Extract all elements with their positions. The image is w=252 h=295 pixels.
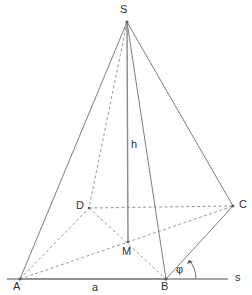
- vertex-label-a: A: [13, 281, 20, 292]
- angle-arrow-head: [187, 260, 193, 264]
- angle-label-phi: φ: [176, 264, 183, 275]
- axis-label: s: [235, 272, 241, 283]
- vertex-label-c: C: [239, 199, 247, 210]
- edge-dc-dashed: [89, 206, 233, 208]
- base-edge-label: a: [92, 282, 98, 293]
- edge-sd-dashed: [89, 22, 127, 208]
- vertex-dot-m: [127, 241, 129, 243]
- vertex-label-d: D: [76, 200, 84, 211]
- vertex-dot-c: [232, 205, 235, 208]
- vertex-label-b: B: [161, 281, 168, 292]
- vertex-label-m: M: [122, 246, 131, 257]
- height-line-sm: [127, 22, 128, 242]
- pyramid-diagram: S A B C D M h a s φ: [0, 0, 252, 295]
- height-label: h: [131, 139, 137, 150]
- edge-ad-dashed: [20, 208, 89, 279]
- vertex-dot-d: [88, 207, 90, 209]
- edge-sa: [20, 22, 127, 279]
- vertex-dot-s: [125, 20, 128, 23]
- vertex-label-s: S: [120, 4, 127, 15]
- edge-sc: [127, 22, 233, 206]
